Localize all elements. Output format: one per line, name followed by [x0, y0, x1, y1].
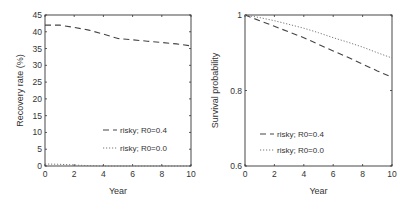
series-line-r0-0-0 [245, 15, 392, 58]
plot-frame [245, 15, 392, 166]
legend-label: risky; R0=0.0 [120, 144, 167, 153]
x-tick-label: 8 [159, 169, 164, 179]
y-tick-label: 0.6 [230, 161, 242, 171]
x-tick-label: 0 [43, 169, 48, 179]
x-tick-label: 4 [101, 169, 106, 179]
y-axis-label: Recovery rate (%) [15, 54, 25, 127]
y-tick-label: 30 [33, 60, 43, 70]
y-tick-label: 35 [33, 44, 43, 54]
series-line-r0-0-4 [245, 15, 392, 77]
legend-label: risky; R0=0.4 [120, 126, 167, 135]
y-tick-label: 5 [37, 144, 42, 154]
x-tick-label: 6 [331, 169, 336, 179]
legend-label: risky; R0=0.0 [277, 146, 324, 155]
x-tick-label: 2 [272, 169, 277, 179]
y-tick-label: 20 [33, 94, 43, 104]
x-tick-label: 10 [186, 169, 196, 179]
chart-panel-2: 02468100.60.81YearSurvival probabilityri… [210, 10, 397, 196]
y-tick-label: 25 [33, 77, 43, 87]
x-tick-label: 10 [387, 169, 397, 179]
x-axis-label: Year [309, 186, 327, 196]
y-tick-label: 0.8 [230, 86, 242, 96]
x-tick-label: 0 [243, 169, 248, 179]
y-tick-label: 1 [237, 10, 242, 20]
y-tick-label: 45 [33, 10, 43, 20]
x-tick-label: 2 [72, 169, 77, 179]
y-axis-label: Survival probability [210, 52, 220, 128]
legend-label: risky; R0=0.4 [277, 130, 324, 139]
plot-frame [45, 15, 191, 166]
y-tick-label: 0 [37, 161, 42, 171]
x-axis-label: Year [109, 186, 127, 196]
x-tick-label: 8 [360, 169, 365, 179]
x-tick-label: 4 [301, 169, 306, 179]
y-tick-label: 40 [33, 27, 43, 37]
y-tick-label: 10 [33, 127, 43, 137]
y-tick-label: 15 [33, 111, 43, 121]
chart-canvas: 0246810051015202530354045YearRecovery ra… [0, 0, 412, 206]
chart-panel-1: 0246810051015202530354045YearRecovery ra… [15, 10, 196, 196]
series-line-r0-0-4 [45, 25, 191, 46]
x-tick-label: 6 [130, 169, 135, 179]
